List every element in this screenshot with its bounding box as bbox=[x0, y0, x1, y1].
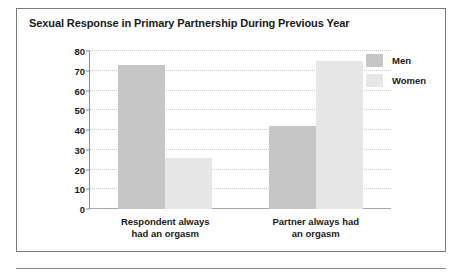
y-axis-tick-label: 80 bbox=[74, 46, 85, 57]
plot-area-wrapper: 01020304050607080Respondent alwayshad an… bbox=[61, 45, 391, 231]
y-axis-tick-label: 60 bbox=[74, 85, 85, 96]
plot-area: 01020304050607080Respondent alwayshad an… bbox=[89, 51, 391, 209]
bar-women[interactable] bbox=[165, 158, 212, 209]
y-axis-tick-label: 0 bbox=[80, 204, 85, 215]
y-axis-tick-label: 70 bbox=[74, 65, 85, 76]
legend-label-men: Men bbox=[392, 55, 411, 66]
x-axis-category-label: Partner always hadan orgasm bbox=[272, 216, 359, 240]
legend-label-women: Women bbox=[392, 75, 426, 86]
y-axis-tick-label: 30 bbox=[74, 144, 85, 155]
chart-figure-frame: Sexual Response in Primary Partnership D… bbox=[16, 8, 446, 252]
y-axis-tick-label: 40 bbox=[74, 125, 85, 136]
legend-item-men: Men bbox=[366, 50, 426, 70]
bar-women[interactable] bbox=[316, 61, 363, 209]
legend-swatch-women bbox=[366, 74, 383, 87]
chart-title: Sexual Response in Primary Partnership D… bbox=[29, 17, 349, 29]
y-axis-tick-label: 20 bbox=[74, 164, 85, 175]
y-axis-tick-label: 10 bbox=[74, 184, 85, 195]
page-bottom-rule bbox=[16, 268, 446, 269]
bar-men[interactable] bbox=[269, 126, 316, 209]
chart-legend: Men Women bbox=[366, 50, 426, 90]
legend-item-women: Women bbox=[366, 70, 426, 90]
y-axis-tick-label: 50 bbox=[74, 105, 85, 116]
x-axis-category-label: Respondent alwayshad an orgasm bbox=[121, 216, 210, 240]
legend-swatch-men bbox=[366, 54, 383, 67]
bar-group: Respondent alwayshad an orgasm bbox=[90, 51, 241, 209]
bar-men[interactable] bbox=[118, 65, 165, 209]
